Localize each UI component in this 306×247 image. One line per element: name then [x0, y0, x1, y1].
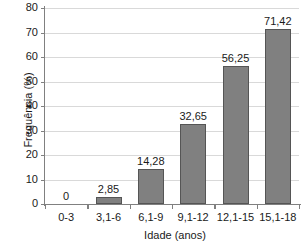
y-tick-label: 0 [0, 198, 38, 209]
y-tick-label: 30 [0, 125, 38, 136]
x-tick-mark [214, 205, 215, 209]
y-tick-label: 80 [0, 2, 38, 13]
bar-value-label: 2,85 [79, 183, 139, 195]
x-axis-title: Idade (anos) [0, 229, 306, 241]
bar-value-label: 32,65 [163, 110, 223, 122]
bar-chart: Frequência (%) 01020304050607080 02,8514… [0, 0, 306, 247]
x-tick-label: 15,1-18 [248, 211, 306, 223]
x-tick-mark [257, 205, 258, 209]
y-tick-label: 50 [0, 76, 38, 87]
x-tick-mark [130, 205, 131, 209]
y-tick-label: 20 [0, 149, 38, 160]
x-tick-mark [172, 205, 173, 209]
x-tick-mark [299, 205, 300, 209]
y-tick-label: 70 [0, 27, 38, 38]
y-tick-label: 60 [0, 51, 38, 62]
bar [96, 197, 122, 204]
y-tick-label: 10 [0, 174, 38, 185]
bar [223, 66, 249, 204]
x-tick-mark [45, 205, 46, 209]
bar-value-label: 56,25 [206, 52, 266, 64]
bar [138, 169, 164, 204]
bar [180, 124, 206, 204]
x-tick-mark [87, 205, 88, 209]
bar-value-label: 71,42 [248, 15, 306, 27]
bar [265, 29, 291, 204]
plot-area [45, 8, 299, 204]
bar-value-label: 14,28 [121, 155, 181, 167]
y-tick-label: 40 [0, 100, 38, 111]
